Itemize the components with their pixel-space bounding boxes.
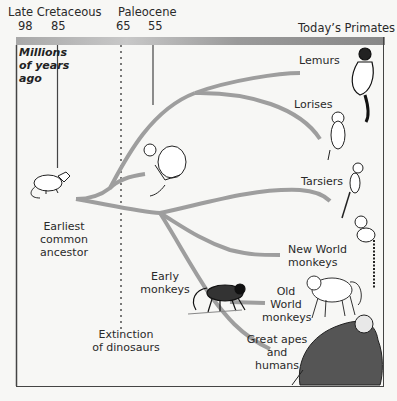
branch-old-world-monkeys [230, 302, 265, 303]
old-world-monkey-illustration [307, 276, 361, 318]
axis-label-line: Millions [19, 46, 69, 59]
label-old-world-monkeys: Old World monkeys [262, 285, 310, 324]
new-world-monkey-illustration [355, 216, 375, 288]
label-line: Early [140, 270, 190, 283]
label-line: humans [246, 359, 308, 372]
branch-new-world-monkeys [160, 213, 280, 255]
label-earliest-common-ancestor: Earliest common ancestor [34, 220, 94, 259]
axis-label-millions-of-years-ago: Millions of years ago [19, 46, 69, 85]
label-line: Great apes [246, 333, 308, 346]
label-line: Earliest [34, 220, 94, 233]
label-line: common [34, 233, 94, 246]
label-line: ancestor [34, 246, 94, 259]
branch-strepsirrhine-stem [76, 93, 195, 199]
label-line: of dinosaurs [90, 341, 162, 354]
label-line: Tarsiers [301, 175, 343, 188]
label-extinction-of-dinosaurs: Extinction of dinosaurs [90, 328, 162, 354]
early-monkey-illustration [188, 284, 245, 314]
branch-lemurs [195, 73, 300, 93]
early-prosimian-illustration [144, 144, 186, 196]
axis-label-line: ago [19, 72, 69, 85]
label-early-monkeys: Early monkeys [140, 270, 190, 296]
label-line: monkeys [262, 311, 310, 324]
label-line: Extinction [90, 328, 162, 341]
ancestor-illustration [31, 172, 70, 198]
label-line: Lorises [294, 98, 332, 111]
label-new-world-monkeys: New World monkeys [288, 243, 347, 269]
label-line: Lemurs [299, 54, 340, 67]
branch-tarsiers [76, 190, 330, 213]
label-line: New World [288, 243, 347, 256]
loris-illustration [328, 112, 345, 160]
axis-label-line: of years [19, 59, 69, 72]
label-line: and [246, 346, 308, 359]
label-lorises: Lorises [294, 98, 332, 111]
lemur-illustration [352, 48, 373, 122]
label-line: monkeys [288, 256, 347, 269]
label-line: World [262, 298, 310, 311]
label-tarsiers: Tarsiers [301, 175, 343, 188]
label-line: monkeys [140, 283, 190, 296]
label-line: Old [262, 285, 310, 298]
label-great-apes-and-humans: Great apes and humans [246, 333, 308, 372]
tarsier-illustration [342, 163, 363, 218]
label-lemurs: Lemurs [299, 54, 340, 67]
